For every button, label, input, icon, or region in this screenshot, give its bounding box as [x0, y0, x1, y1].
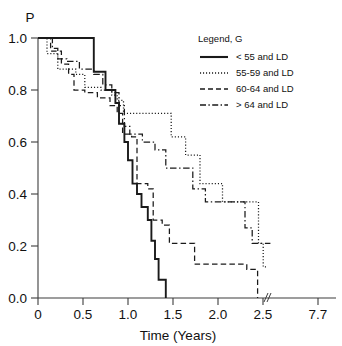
x-tick-label: 7.7	[309, 307, 328, 322]
y-tick-label: 0.4	[8, 187, 27, 202]
legend-label-55-59: 55-59 and LD	[236, 67, 294, 78]
x-axis-ticks: 0 0.5 1.0 1.5 2.0 2.5 7.7	[34, 298, 327, 322]
y-tick-label: 0.2	[8, 239, 27, 254]
x-tick-label: 1.5	[164, 307, 183, 322]
x-tick-label: 1.0	[119, 307, 138, 322]
y-axis-title: P	[25, 10, 34, 25]
x-tick-label: 2.0	[209, 307, 228, 322]
x-tick-label: 0	[34, 307, 42, 322]
legend-label-under-55: < 55 and LD	[236, 51, 288, 62]
legend-title: Legend, G	[198, 33, 242, 44]
y-tick-label: 0.6	[8, 135, 27, 150]
x-tick-label: 2.5	[254, 307, 273, 322]
legend: Legend, G < 55 and LD 55-59 and LD 60-64…	[198, 33, 294, 110]
legend-label-60-64: 60-64 and LD	[236, 83, 294, 94]
legend-label-over-64: > 64 and LD	[236, 99, 288, 110]
kaplan-meier-plot: P 0.0 0.2 0.4 0.6 0.8 1.0	[0, 0, 342, 346]
y-tick-label: 1.0	[8, 31, 27, 46]
curve-under-55-and-ld	[38, 38, 166, 298]
curve-55-59-and-ld	[38, 38, 267, 267]
x-tick-label: 0.5	[74, 307, 93, 322]
y-axis-ticks: 0.0 0.2 0.4 0.6 0.8 1.0	[8, 31, 38, 306]
y-tick-label: 0.0	[8, 291, 27, 306]
x-axis-title: Time (Years)	[140, 328, 216, 343]
curve-60-64-and-ld	[38, 38, 258, 298]
y-tick-label: 0.8	[8, 83, 27, 98]
survival-curve-figure: P 0.0 0.2 0.4 0.6 0.8 1.0	[0, 0, 342, 346]
